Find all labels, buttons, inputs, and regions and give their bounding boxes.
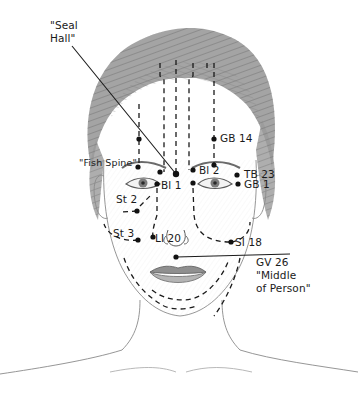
point-bl1-left <box>154 181 159 186</box>
label-fish-spine: "Fish Spine" <box>79 157 137 169</box>
label-gb14: GB 14 <box>220 132 253 145</box>
point-bl1-right <box>190 180 195 185</box>
point-bl2-right <box>190 167 195 172</box>
label-gv26: GV 26 <box>256 256 311 269</box>
point-gb14-right <box>211 136 216 141</box>
label-seal-hall-line1: "Seal <box>50 19 78 32</box>
label-gv26-middle-of-person: GV 26 "Middle of Person" <box>256 256 311 295</box>
label-st3: St 3 <box>113 227 134 240</box>
point-seal-hall <box>173 171 179 177</box>
point-st3 <box>135 237 140 242</box>
label-seal-hall-line2: Hall" <box>50 32 78 45</box>
point-gb1 <box>235 181 240 186</box>
point-tb23 <box>234 172 239 177</box>
label-li20: LI 20 <box>155 232 181 245</box>
point-gv26 <box>173 254 178 259</box>
label-middle-of-person-line1: "Middle <box>256 269 311 282</box>
face-acupoint-diagram <box>0 0 358 400</box>
point-si18 <box>228 239 233 244</box>
point-gb14-left <box>136 136 141 141</box>
label-gb1: GB 1 <box>244 178 270 191</box>
label-bl2: Bl 2 <box>199 164 220 177</box>
label-seal-hall: "Seal Hall" <box>50 19 78 45</box>
label-middle-of-person-line2: of Person" <box>256 282 311 295</box>
label-st2: St 2 <box>116 193 137 206</box>
label-bl1: Bl 1 <box>161 179 182 192</box>
point-bl2-left <box>157 169 162 174</box>
point-st2 <box>134 208 139 213</box>
label-si18: SI 18 <box>235 236 262 249</box>
